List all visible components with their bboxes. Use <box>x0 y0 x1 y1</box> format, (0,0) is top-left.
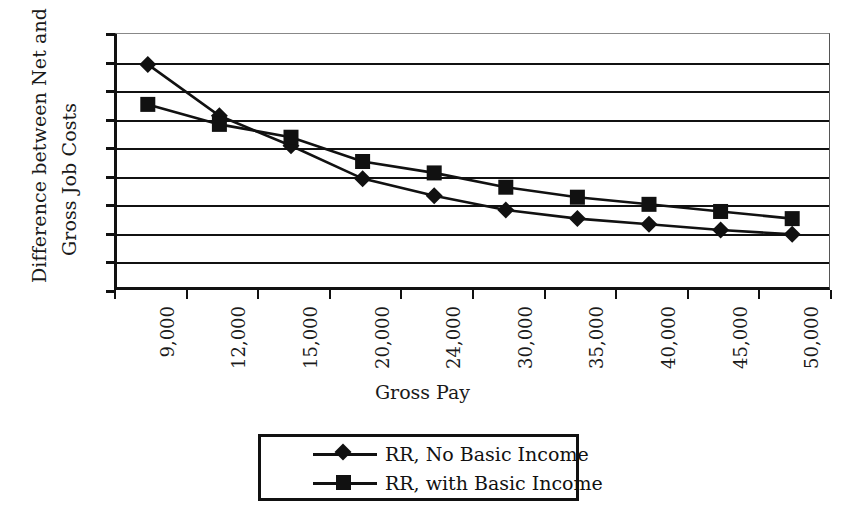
x-tick-label: 40,000 <box>658 306 679 369</box>
y-axis-title: Difference between Net and Gross Job Cos… <box>0 0 110 300</box>
x-tick-label: 30,000 <box>515 306 536 369</box>
y-tick-mark <box>106 62 115 65</box>
gridline <box>117 234 829 236</box>
gridline <box>117 63 829 65</box>
chart-figure: Difference between Net and Gross Job Cos… <box>0 0 845 527</box>
x-tick-mark <box>257 290 259 299</box>
legend-item-1[interactable]: RR, with Basic Income <box>261 468 576 498</box>
y-axis-title-line-2: Gross Job Costs <box>58 103 80 256</box>
x-tick-mark <box>687 290 689 299</box>
chart-legend: RR, No Basic Income RR, with Basic Incom… <box>258 434 579 501</box>
x-tick-label: 24,000 <box>443 306 464 369</box>
x-tick-label: 12,000 <box>228 306 249 369</box>
gridline <box>117 177 829 179</box>
x-tick-mark <box>400 290 402 299</box>
x-tick-label: 35,000 <box>586 306 607 369</box>
y-tick-mark <box>106 176 115 179</box>
legend-marker-diamond-icon <box>313 441 377 467</box>
gridline <box>117 148 829 150</box>
gridline <box>117 262 829 264</box>
x-tick-label: 50,000 <box>801 306 822 369</box>
legend-item-0[interactable]: RR, No Basic Income <box>261 439 576 469</box>
x-tick-label: 9,000 <box>157 306 178 358</box>
x-tick-mark <box>758 290 760 299</box>
y-tick-mark <box>106 33 115 36</box>
x-tick-label: 20,000 <box>372 306 393 369</box>
x-tick-mark <box>114 290 116 299</box>
y-tick-mark <box>106 147 115 150</box>
x-tick-mark <box>329 290 331 299</box>
x-tick-label: 45,000 <box>730 306 751 369</box>
y-tick-mark <box>106 204 115 207</box>
y-tick-mark <box>106 233 115 236</box>
x-tick-mark <box>544 290 546 299</box>
y-tick-mark <box>106 90 115 93</box>
plot-area <box>114 33 830 290</box>
x-tick-label: 15,000 <box>300 306 321 369</box>
gridline <box>117 205 829 207</box>
legend-label-0: RR, No Basic Income <box>385 443 589 465</box>
gridline <box>117 120 829 122</box>
y-tick-mark <box>106 261 115 264</box>
y-tick-mark <box>106 119 115 122</box>
x-tick-mark <box>830 290 832 299</box>
y-axis-title-line-1: Difference between Net and <box>28 8 50 283</box>
legend-label-1: RR, with Basic Income <box>385 472 603 494</box>
x-tick-mark <box>472 290 474 299</box>
x-tick-mark <box>615 290 617 299</box>
legend-marker-square-icon <box>313 470 377 496</box>
gridline <box>117 91 829 93</box>
x-tick-mark <box>186 290 188 299</box>
x-axis-title: Gross Pay <box>0 381 845 403</box>
